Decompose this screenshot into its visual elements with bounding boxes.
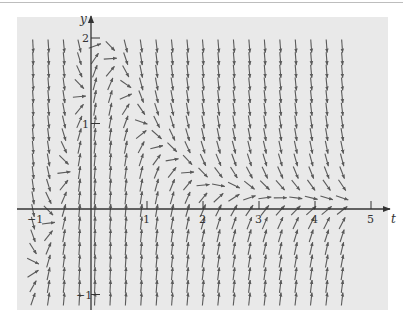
direction-arrow (94, 255, 95, 268)
t-axis-label: t (391, 212, 396, 226)
direction-arrow (94, 242, 95, 255)
y-tick-label: 2 (82, 32, 89, 45)
direction-arrow (125, 280, 126, 293)
direction-arrow (110, 280, 111, 293)
y-axis-label: y (79, 12, 87, 26)
t-tick-label: 3 (255, 213, 262, 226)
direction-arrow (110, 242, 111, 255)
direction-arrow (95, 267, 96, 280)
direction-arrow (33, 39, 34, 52)
direction-arrow (125, 293, 126, 306)
t-tick-label: 2 (199, 213, 206, 226)
t-tick-label: 5 (367, 213, 374, 226)
direction-arrow (33, 52, 34, 65)
direction-arrow (94, 229, 95, 242)
y-tick-label: 1 (82, 118, 89, 131)
direction-arrow (110, 293, 111, 306)
slope-field-plot: −112345 −112 t y (0, 0, 403, 321)
t-tick-label: −1 (27, 213, 43, 226)
t-tick-label: 4 (311, 213, 318, 226)
direction-arrow (110, 255, 111, 268)
direction-arrow (110, 267, 111, 280)
direction-arrow (95, 280, 96, 293)
t-tick-label: 1 (143, 213, 150, 226)
direction-arrow (33, 65, 34, 78)
y-tick-label: −1 (76, 289, 92, 302)
